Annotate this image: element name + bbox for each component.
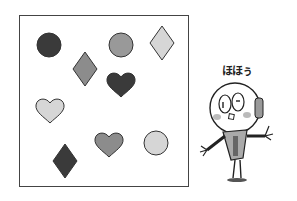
light-heart-shape	[36, 99, 64, 123]
dark-heart-shape	[107, 73, 135, 97]
light-diamond-shape	[150, 26, 174, 60]
shapes-canvas	[0, 0, 200, 201]
speech-text: ほほぅ	[222, 62, 252, 78]
dark-circle-shape	[37, 33, 61, 57]
medium-heart-shape	[95, 133, 123, 157]
robot-character-icon	[195, 80, 295, 190]
light-circle-shape	[144, 131, 168, 155]
medium-diamond-shape	[73, 52, 97, 86]
dark-diamond-shape	[53, 144, 77, 178]
medium-circle-shape	[109, 33, 133, 57]
